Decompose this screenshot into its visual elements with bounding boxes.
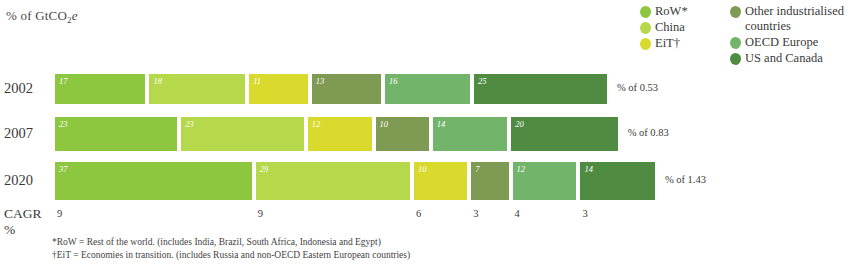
cagr-value: 6 [416, 208, 421, 219]
bar-segment[interactable]: 10 [414, 162, 467, 200]
row-label-2007: 2007 [4, 125, 52, 142]
bar-value-label: 13 [316, 76, 325, 86]
bar-value-label: 14 [437, 119, 446, 129]
bar-segment[interactable]: 13 [312, 74, 381, 104]
bar-value-label: 10 [418, 164, 427, 174]
footnote-eit: †EiT = Economies in transition. (include… [52, 249, 410, 262]
bar-segment[interactable]: 17 [55, 74, 145, 104]
cagr-label-line1: CAGR [4, 206, 42, 222]
footnotes: *RoW = Rest of the world. (includes Indi… [52, 236, 410, 262]
bar-value-label: 17 [59, 76, 68, 86]
bar-segment[interactable]: 20 [511, 117, 617, 151]
bar-segment[interactable]: 23 [181, 117, 303, 151]
bar-row-2020: 202037291071214% of 1.43 [0, 162, 848, 200]
bar-segment[interactable]: 18 [149, 74, 245, 104]
legend-swatch-china-icon [640, 22, 651, 34]
bar-group-2020: 37291071214 [55, 162, 655, 200]
bar-segment[interactable]: 25 [474, 74, 607, 104]
bar-value-label: 37 [59, 164, 68, 174]
bar-value-label: 10 [380, 119, 389, 129]
legend-swatch-us-canada-icon [730, 53, 741, 65]
legend-item-us-canada[interactable]: US and Canada [730, 51, 846, 66]
legend-column-right: Other industrialised countries OECD Euro… [730, 4, 846, 67]
row-total-label-2002: % of 0.53 [617, 82, 658, 93]
legend-label-other-industrialised: Other industrialised countries [745, 4, 846, 34]
row-label-2002: 2002 [4, 80, 52, 97]
legend-item-other-industrialised[interactable]: Other industrialised countries [730, 4, 846, 34]
bar-segment[interactable]: 23 [55, 117, 177, 151]
bar-value-label: 23 [185, 119, 194, 129]
legend-swatch-row-icon [640, 6, 651, 18]
chart-legend: RoW* China EiT† Other industrialised cou… [640, 4, 846, 67]
row-total-label-2020: % of 1.43 [665, 174, 706, 185]
bar-segment[interactable]: 14 [433, 117, 507, 151]
bar-segment[interactable]: 11 [249, 74, 308, 104]
legend-item-eit[interactable]: EiT† [640, 36, 718, 51]
bar-value-label: 29 [260, 164, 269, 174]
bar-value-label: 23 [59, 119, 68, 129]
axis-unit-prefix: % of GtCO [6, 8, 67, 23]
cagr-value: 3 [473, 208, 478, 219]
bar-value-label: 11 [253, 76, 261, 86]
bar-segment[interactable]: 12 [308, 117, 372, 151]
row-total-label-2007: % of 0.83 [628, 127, 669, 138]
bar-value-label: 14 [584, 164, 593, 174]
legend-swatch-other-industrialised-icon [730, 6, 741, 18]
legend-label-row: RoW* [655, 4, 688, 19]
bar-segment[interactable]: 29 [256, 162, 410, 200]
bar-segment[interactable]: 7 [471, 162, 508, 200]
legend-swatch-oecd-europe-icon [730, 37, 741, 49]
row-label-2020: 2020 [4, 172, 52, 189]
cagr-value: 3 [582, 208, 587, 219]
bar-group-2007: 232312101420 [55, 117, 618, 151]
bar-segment[interactable]: 10 [376, 117, 429, 151]
cagr-value: 4 [515, 208, 520, 219]
legend-column-left: RoW* China EiT† [640, 4, 718, 67]
bar-row-2007: 2007232312101420% of 0.83 [0, 117, 848, 151]
legend-item-oecd-europe[interactable]: OECD Europe [730, 35, 846, 50]
bar-segment[interactable]: 14 [580, 162, 654, 200]
legend-label-oecd-europe: OECD Europe [745, 35, 818, 50]
legend-swatch-eit-icon [640, 38, 651, 50]
bar-value-label: 7 [475, 164, 479, 174]
bar-value-label: 20 [515, 119, 524, 129]
bar-value-label: 25 [478, 76, 487, 86]
axis-unit-suffix: e [72, 8, 78, 23]
legend-item-china[interactable]: China [640, 20, 718, 35]
legend-label-china: China [655, 20, 685, 35]
stacked-bar-plot-area: 2002171811131625% of 0.53200723231210142… [0, 66, 848, 216]
axis-unit-label: % of GtCO2e [6, 8, 78, 25]
legend-item-row[interactable]: RoW* [640, 4, 718, 19]
bar-value-label: 12 [517, 164, 526, 174]
bar-segment[interactable]: 37 [55, 162, 252, 200]
bar-value-label: 16 [389, 76, 398, 86]
bar-row-2002: 2002171811131625% of 0.53 [0, 74, 848, 104]
footnote-row: *RoW = Rest of the world. (includes Indi… [52, 236, 410, 249]
bar-segment[interactable]: 16 [385, 74, 470, 104]
cagr-value: 9 [57, 208, 62, 219]
cagr-axis-label: CAGR % [4, 206, 42, 238]
cagr-label-line2: % [4, 222, 42, 238]
bar-segment[interactable]: 12 [513, 162, 577, 200]
legend-label-us-canada: US and Canada [745, 51, 823, 66]
bar-value-label: 18 [153, 76, 162, 86]
bar-group-2002: 171811131625 [55, 74, 607, 104]
cagr-value: 9 [258, 208, 263, 219]
legend-label-eit: EiT† [655, 36, 680, 51]
bar-value-label: 12 [312, 119, 321, 129]
